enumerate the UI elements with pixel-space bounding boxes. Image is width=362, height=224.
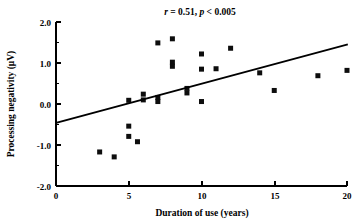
data-point xyxy=(228,46,233,51)
y-tick-label-0.0: 0.0 xyxy=(40,100,52,110)
y-tick-label-neg2.0: -2.0 xyxy=(37,182,52,192)
chart-canvas: r = 0.51, p < 0.005 2.0 1.0 0.0 -1.0 -2.… xyxy=(0,0,362,224)
data-point xyxy=(155,40,160,45)
x-tick-label-10: 10 xyxy=(198,191,208,201)
x-axis-title: Duration of use (years) xyxy=(155,208,248,219)
y-tick-label-neg1.0: -1.0 xyxy=(37,141,52,151)
p-value-text: < 0.005 xyxy=(204,7,236,17)
data-point xyxy=(272,88,277,93)
data-point xyxy=(199,51,204,56)
x-tick-label-15: 15 xyxy=(271,191,281,201)
y-axis-title: Processing negativity (μV) xyxy=(6,51,17,158)
r-value-text: = 0.51, xyxy=(168,7,200,17)
data-point xyxy=(135,139,140,144)
data-point xyxy=(184,90,189,95)
y-tick-label-1.0: 1.0 xyxy=(40,59,52,69)
scatter-plot-figure: r = 0.51, p < 0.005 2.0 1.0 0.0 -1.0 -2.… xyxy=(0,0,362,224)
data-point xyxy=(170,36,175,41)
data-point xyxy=(112,154,117,159)
data-point xyxy=(345,68,350,73)
y-tick-label-2.0: 2.0 xyxy=(40,18,52,28)
x-tick-label-20: 20 xyxy=(343,191,353,201)
data-point xyxy=(214,66,219,71)
statistics-title: r = 0.51, p < 0.005 xyxy=(164,7,236,17)
data-point xyxy=(257,70,262,75)
data-point xyxy=(126,124,131,129)
data-point xyxy=(199,67,204,72)
data-point xyxy=(170,64,175,69)
x-tick-label-5: 5 xyxy=(127,191,132,201)
data-point xyxy=(126,134,131,139)
data-point xyxy=(199,99,204,104)
data-point xyxy=(97,149,102,154)
x-tick-label-0: 0 xyxy=(54,191,59,201)
data-point xyxy=(315,73,320,78)
data-point xyxy=(141,92,146,97)
